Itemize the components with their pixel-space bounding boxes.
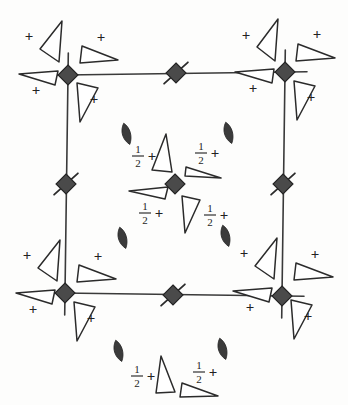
triangle-tl-c-plus-label: + xyxy=(32,82,41,98)
triangle-tr-c-plus-label: + xyxy=(249,80,258,96)
corner-top-right xyxy=(275,62,295,82)
triangle-br-b-plus-label: + xyxy=(311,246,320,262)
lens-inner-top-left xyxy=(120,122,133,145)
lens-inner-bottom-right xyxy=(219,224,232,247)
triangle-tl-d-plus-label: + xyxy=(90,91,99,107)
triangle-tr-a-plus-label: + xyxy=(242,27,251,43)
triangle-bb-b-half-plus-label-numerator: 1 xyxy=(196,359,202,371)
triangle-c-d xyxy=(182,196,200,233)
triangle-c-b xyxy=(185,167,221,178)
triangle-bl-d-plus-label: + xyxy=(87,310,96,326)
triangle-c-a-half-plus-label-plus: + xyxy=(148,148,157,164)
triangle-c-a-half-plus-label: 12+ xyxy=(132,143,156,169)
triangle-bb-b-half-plus-label-denominator: 2 xyxy=(196,373,202,385)
triangle-bb-a-half-plus-label-numerator: 1 xyxy=(134,363,140,375)
triangle-bb-b xyxy=(180,383,218,397)
triangle-c-c-half-plus-label-numerator: 1 xyxy=(142,200,148,212)
triangle-bl-b-plus-label: + xyxy=(94,248,103,264)
triangle-c-d-half-plus-label-plus: + xyxy=(220,207,229,223)
triangle-c-b-half-plus-label-numerator: 1 xyxy=(198,140,204,152)
triangle-bb-a-half-plus-label-denominator: 2 xyxy=(134,377,140,389)
corner-bottom-right xyxy=(272,286,292,306)
lens-outer-bottom-right xyxy=(216,337,229,360)
triangle-c-a-half-plus-label-numerator: 1 xyxy=(135,143,141,155)
triangle-bb-b-half-plus-label-plus: + xyxy=(209,364,218,380)
triangle-c-b-half-plus-label-plus: + xyxy=(211,145,220,161)
triangle-c-d-half-plus-label-numerator: 1 xyxy=(207,202,213,214)
triangle-tl-b xyxy=(80,46,118,63)
triangle-bl-a xyxy=(38,240,60,281)
triangle-c-d-half-plus-label-denominator: 2 xyxy=(207,216,213,228)
triangle-tr-a xyxy=(257,19,278,61)
corner-top-left xyxy=(58,65,78,85)
space-group-diagram: ++++++++++++++++12+12+12+12+12+12+ xyxy=(0,0,348,405)
triangle-tl-b-plus-label: + xyxy=(97,29,106,45)
triangle-br-b xyxy=(294,263,333,280)
triangle-bb-a xyxy=(156,356,175,393)
triangle-c-b-half-plus-label-denominator: 2 xyxy=(198,154,204,166)
triangle-c-c xyxy=(129,187,168,199)
lens-outer-bottom-left xyxy=(112,339,125,362)
triangle-bb-a-half-plus-label-plus: + xyxy=(147,368,156,384)
edge-mid-bottom xyxy=(161,284,185,305)
triangle-br-d-plus-label: + xyxy=(304,308,313,324)
triangle-br-a xyxy=(255,238,277,279)
corner-bottom-left xyxy=(55,283,75,303)
triangle-bb-b-half-plus-label: 12+ xyxy=(193,359,217,385)
space-group-canvas: ++++++++++++++++12+12+12+12+12+12+ xyxy=(0,0,348,405)
triangle-bl-b xyxy=(77,265,116,282)
triangle-c-d-half-plus-label: 12+ xyxy=(204,202,228,228)
triangle-bb-a-half-plus-label: 12+ xyxy=(131,363,155,389)
lens-inner-top-right xyxy=(222,121,235,144)
triangle-tr-b-plus-label: + xyxy=(313,26,322,42)
triangle-c-a-half-plus-label-denominator: 2 xyxy=(135,157,141,169)
triangle-c-b-half-plus-label: 12+ xyxy=(195,140,219,166)
triangle-tl-a xyxy=(40,21,62,62)
triangle-br-c-plus-label: + xyxy=(246,299,255,315)
triangle-c-c-half-plus-label: 12+ xyxy=(139,200,163,226)
edge-mid-top xyxy=(164,62,188,83)
triangle-bl-a-plus-label: + xyxy=(23,247,32,263)
triangle-tl-a-plus-label: + xyxy=(25,28,34,44)
triangle-tr-d-plus-label: + xyxy=(307,89,316,105)
lens-inner-bottom-left xyxy=(116,226,129,249)
cell-center xyxy=(165,174,185,194)
triangle-bl-c-plus-label: + xyxy=(29,301,38,317)
edge-mid-left xyxy=(54,173,78,194)
triangle-br-a-plus-label: + xyxy=(240,245,249,261)
edge-mid-right xyxy=(271,173,295,194)
triangle-tr-b xyxy=(296,44,335,61)
triangle-c-c-half-plus-label-denominator: 2 xyxy=(142,214,148,226)
triangle-c-c-half-plus-label-plus: + xyxy=(155,205,164,221)
